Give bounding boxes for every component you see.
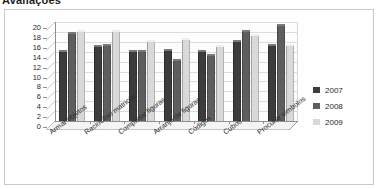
bar-2007-4[interactable] [164, 49, 172, 121]
y-axis-tick-label: 18 [33, 34, 41, 42]
y-axis-tick-label: 4 [37, 103, 41, 111]
bar-top-face [68, 32, 76, 34]
bar-face [216, 45, 224, 121]
bar-2007-6[interactable] [233, 40, 241, 121]
bar-face [251, 34, 259, 121]
legend-item-2007[interactable]: 2007 [313, 82, 371, 98]
bar-top-face [173, 59, 181, 61]
bar-2008-6[interactable] [242, 30, 250, 121]
bar-face [233, 40, 241, 121]
legend-label: 2007 [325, 86, 343, 95]
y-axis-tick-label: 16 [33, 44, 41, 52]
legend-label: 2009 [325, 118, 343, 127]
bar-top-face [94, 45, 102, 47]
chart-legend: 200720082009 [313, 82, 371, 130]
bar-face [59, 50, 67, 121]
bar-top-face [77, 30, 85, 32]
bar-top-face [103, 44, 111, 46]
bar-2007-1[interactable] [59, 50, 67, 121]
y-axis-tick-label: 2 [37, 113, 41, 121]
legend-swatch-icon [313, 119, 320, 125]
bar-top-face [286, 44, 294, 46]
bar-top-face [242, 30, 250, 32]
y-axis-tick-label: 0 [37, 123, 41, 131]
bar-top-face [233, 40, 241, 42]
bar-top-face [268, 44, 276, 46]
y-axis-tick-label: 20 [33, 24, 41, 32]
bar-2007-3[interactable] [129, 50, 137, 121]
bar-face [268, 44, 276, 121]
bar-face [129, 50, 137, 121]
chart-frame: 20181614121086420 Armar objetosRaciocíni… [4, 9, 374, 185]
bar-2007-7[interactable] [268, 44, 276, 121]
legend-item-2009[interactable]: 2009 [313, 114, 371, 130]
bar-group[interactable] [198, 22, 224, 121]
bar-top-face [182, 38, 190, 40]
bar-face [242, 30, 250, 121]
y-axis-tick-label: 8 [37, 84, 41, 92]
y-axis-tick-label: 12 [33, 64, 41, 72]
bar-2009-6[interactable] [251, 34, 259, 121]
y-axis-tick-label: 14 [33, 54, 41, 62]
page-heading: Avaliações [2, 0, 61, 6]
bars-layer [55, 22, 298, 121]
y-axis-tick-label: 10 [33, 74, 41, 82]
bar-group[interactable] [233, 22, 259, 121]
bar-top-face [147, 40, 155, 42]
bar-2007-5[interactable] [198, 50, 206, 121]
legend-label: 2008 [325, 102, 343, 111]
bar-top-face [216, 45, 224, 47]
bar-2009-5[interactable] [216, 45, 224, 121]
category-labels: Armar objetosRaciocínio matricialComplet… [46, 130, 308, 185]
bar-face [94, 45, 102, 121]
bar-top-face [129, 50, 137, 52]
bar-top-face [198, 50, 206, 52]
bar-face [164, 49, 172, 121]
legend-item-2008[interactable]: 2008 [313, 98, 371, 114]
bar-top-face [164, 49, 172, 51]
bar-top-face [277, 24, 285, 26]
bar-2007-2[interactable] [94, 45, 102, 121]
bar-face [207, 54, 215, 121]
bar-top-face [251, 34, 259, 36]
bar-top-face [207, 54, 215, 56]
bar-top-face [112, 30, 120, 32]
bar-top-face [138, 50, 146, 52]
y-axis-tick-label: 6 [37, 94, 41, 102]
y-axis-labels: 20181614121086420 [5, 19, 44, 127]
bar-face [198, 50, 206, 121]
bar-2008-5[interactable] [207, 54, 215, 121]
legend-swatch-icon [313, 103, 320, 109]
bar-top-face [59, 50, 67, 52]
legend-swatch-icon [313, 87, 320, 93]
